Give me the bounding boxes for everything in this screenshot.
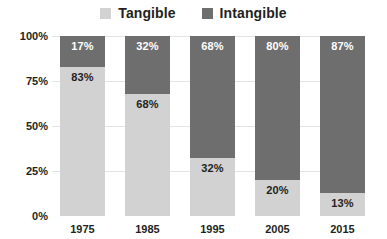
x-axis-tick-label: 1995 xyxy=(190,224,235,235)
bar-segment-intangible[interactable]: 87% xyxy=(320,36,365,193)
bar-segment-intangible[interactable]: 32% xyxy=(125,36,170,94)
bar-segment-tangible[interactable]: 13% xyxy=(320,193,365,216)
bar-value-label: 13% xyxy=(331,193,354,209)
bar-1985[interactable]: 32%68% xyxy=(125,36,170,216)
bar-value-label: 83% xyxy=(71,67,94,83)
bar-value-label: 80% xyxy=(266,36,289,52)
bar-segment-tangible[interactable]: 32% xyxy=(190,158,235,216)
bar-2005[interactable]: 80%20% xyxy=(255,36,300,216)
y-axis-tick: 75% xyxy=(0,76,48,87)
y-axis-tick-label: 25% xyxy=(6,166,48,177)
x-axis-tick-label: 2015 xyxy=(320,224,365,235)
bar-value-label: 32% xyxy=(201,158,224,174)
bar-value-label: 68% xyxy=(201,36,224,52)
bar-segment-tangible[interactable]: 83% xyxy=(60,67,105,216)
y-axis-tick-label: 50% xyxy=(6,121,48,132)
y-axis-tick: 25% xyxy=(0,166,48,177)
y-axis-tick: 100% xyxy=(0,31,48,42)
y-axis-tick-label: 100% xyxy=(6,31,48,42)
y-axis-tick: 50% xyxy=(0,121,48,132)
bar-value-label: 87% xyxy=(331,36,354,52)
bar-value-label: 32% xyxy=(136,36,159,52)
bar-value-label: 17% xyxy=(71,36,94,52)
y-axis-tick-label: 0% xyxy=(6,211,48,222)
bar-value-label: 68% xyxy=(136,94,159,110)
y-axis-tick: 0% xyxy=(0,211,48,222)
bar-value-label: 20% xyxy=(266,180,289,196)
y-axis-tick-label: 75% xyxy=(6,76,48,87)
bar-1975[interactable]: 17%83% xyxy=(60,36,105,216)
bar-segment-tangible[interactable]: 68% xyxy=(125,94,170,216)
bar-2015[interactable]: 87%13% xyxy=(320,36,365,216)
bar-1995[interactable]: 68%32% xyxy=(190,36,235,216)
chart-plot-area: 0%25%50%75%100% 17%83%32%68%68%32%80%20%… xyxy=(0,0,387,239)
x-axis-tick-label: 2005 xyxy=(255,224,300,235)
x-axis-tick-label: 1975 xyxy=(60,224,105,235)
bar-segment-intangible[interactable]: 68% xyxy=(190,36,235,158)
bar-segment-tangible[interactable]: 20% xyxy=(255,180,300,216)
x-axis-tick-label: 1985 xyxy=(125,224,170,235)
bar-segment-intangible[interactable]: 17% xyxy=(60,36,105,67)
bar-segment-intangible[interactable]: 80% xyxy=(255,36,300,180)
